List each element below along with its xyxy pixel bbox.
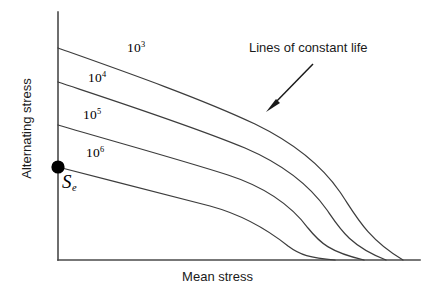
x-axis-title: Mean stress (0, 270, 435, 283)
endurance-limit-label: Se (62, 172, 76, 191)
curve-label-10-6-exponent: 6 (100, 145, 104, 154)
curve-label-10-5-exponent: 5 (97, 107, 101, 116)
curve-label-10-3: 103 (127, 41, 145, 55)
constant-life-diagram-figure: 103 104 105 106 Se Lines of constant lif… (0, 0, 435, 293)
curve-label-10-5-base: 10 (83, 107, 97, 122)
curve-label-10-4-exponent: 4 (102, 70, 106, 79)
endurance-limit-symbol: S (62, 171, 72, 192)
curve-label-10-3-exponent: 3 (141, 40, 145, 49)
constant-life-annotation-text: Lines of constant life (249, 41, 368, 54)
curve-label-10-3-base: 10 (127, 40, 141, 55)
life-curve-10-6 (58, 167, 335, 260)
y-axis-title: Alternating stress (20, 49, 33, 209)
curve-label-10-5: 105 (83, 108, 101, 122)
endurance-limit-subscript: e (72, 182, 77, 193)
annotation-arrow-shaft (273, 64, 313, 105)
life-curve-10-3 (58, 48, 403, 260)
curve-label-10-6: 106 (86, 146, 104, 160)
curve-label-10-6-base: 10 (86, 145, 100, 160)
curve-label-10-4-base: 10 (88, 70, 102, 85)
curve-label-10-4: 104 (88, 71, 106, 85)
annotation-arrow-head (266, 99, 280, 112)
chart-canvas (0, 0, 435, 293)
